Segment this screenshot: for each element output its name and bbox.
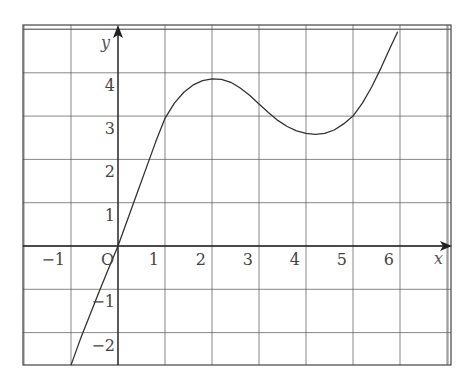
y-tick-label: 1 xyxy=(105,206,115,225)
x-tick-label: −1 xyxy=(41,250,65,269)
y-tick-label: 3 xyxy=(105,119,115,138)
x-tick-label: 6 xyxy=(384,250,394,269)
y-tick-label: 2 xyxy=(105,162,115,181)
y-tick-label: 4 xyxy=(105,76,115,95)
y-axis-label: y xyxy=(100,33,111,52)
grid xyxy=(23,25,451,365)
plot-frame xyxy=(23,25,451,365)
x-tick-label: 1 xyxy=(149,250,159,269)
function-graph: −11234564321−1−2 y x O xyxy=(0,0,473,389)
y-tick-label: −2 xyxy=(91,336,115,355)
tick-labels: −11234564321−1−2 xyxy=(41,76,394,355)
x-tick-label: 3 xyxy=(243,250,253,269)
curve xyxy=(71,32,398,365)
y-tick-label: −1 xyxy=(91,292,115,311)
x-axis-label: x xyxy=(434,249,443,268)
x-tick-label: 5 xyxy=(337,250,347,269)
origin-label: O xyxy=(101,250,114,269)
axes xyxy=(23,25,452,365)
x-tick-label: 2 xyxy=(196,250,206,269)
x-tick-label: 4 xyxy=(290,250,300,269)
